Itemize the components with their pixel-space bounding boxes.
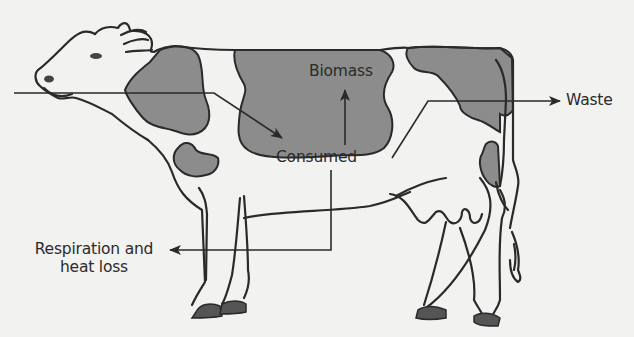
- label-biomass: Biomass: [309, 62, 373, 80]
- label-respiration-line2: heat loss: [20, 258, 168, 276]
- lower-patch: [174, 143, 219, 176]
- label-consumed: Consumed: [276, 148, 357, 166]
- label-waste: Waste: [566, 91, 613, 109]
- nostril: [44, 76, 54, 83]
- shoulder-patch: [125, 46, 209, 134]
- arrow-consumed-to-respiration: [170, 170, 331, 250]
- hoof-rear-right: [474, 313, 500, 326]
- hoof-front-right: [220, 301, 246, 314]
- hoof-front-left: [192, 304, 222, 318]
- udder-outline: [390, 194, 482, 223]
- hind-leg-outline: [426, 178, 490, 308]
- eye: [90, 53, 102, 59]
- label-respiration: Respiration and heat loss: [20, 240, 168, 276]
- belly-outline: [244, 192, 410, 218]
- cow-illustration: [0, 0, 634, 337]
- energy-flow-diagram: Biomass Consumed Waste Respiration and h…: [0, 0, 634, 337]
- rump-patch: [406, 47, 513, 132]
- hooves: [192, 301, 500, 326]
- label-respiration-line1: Respiration and: [20, 240, 168, 258]
- ear-outline: [121, 30, 152, 52]
- hoof-rear-left: [416, 307, 446, 320]
